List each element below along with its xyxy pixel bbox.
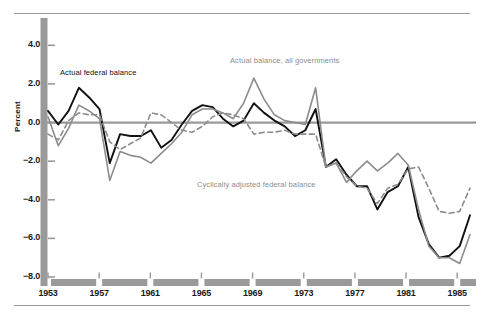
x-axis-bar-segment — [358, 279, 403, 286]
chart-plot-area — [0, 0, 484, 323]
chart-figure: Percent 4.02.00.0−2.0−4.0−6.0−8.0 195319… — [0, 0, 484, 323]
y-axis-bar — [41, 18, 48, 286]
x-axis-bar-segment — [460, 279, 476, 286]
x-axis-bar-segment — [204, 279, 249, 286]
x-axis-bar-segment — [307, 279, 352, 286]
data-series-line — [48, 88, 470, 258]
x-axis-bar-segment — [102, 279, 147, 286]
x-axis-bar-segment — [409, 279, 454, 286]
x-axis-bar-segment — [153, 279, 198, 286]
x-axis-bar-segment — [256, 279, 301, 286]
x-axis-bar-segment — [44, 279, 45, 286]
x-axis-bar-segment — [51, 279, 96, 286]
